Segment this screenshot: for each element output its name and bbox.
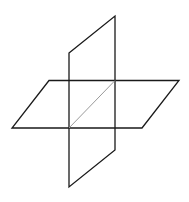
intersecting-planes-diagram	[0, 0, 189, 202]
